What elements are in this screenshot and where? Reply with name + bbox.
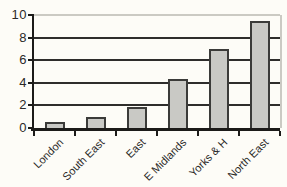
gridline <box>34 82 280 84</box>
x-tick-mark <box>33 131 35 136</box>
y-tick-label: 0 <box>2 120 27 136</box>
y-tick-label: 2 <box>2 97 27 113</box>
gridline <box>34 104 280 106</box>
plot-right-border <box>280 15 282 128</box>
bar <box>250 21 270 128</box>
y-tick-label: 10 <box>2 7 27 23</box>
x-tick-mark <box>115 131 117 136</box>
gridline <box>34 59 280 61</box>
x-tick-mark <box>156 131 158 136</box>
x-tick-mark <box>197 131 199 136</box>
bar-chart: 0246810LondonSouth EastEastE MidlandsYor… <box>0 0 287 187</box>
bar <box>127 107 147 128</box>
gridline <box>34 37 280 39</box>
bar <box>209 49 229 128</box>
x-tick-mark <box>74 131 76 136</box>
y-tick-label: 4 <box>2 75 27 91</box>
y-tick-label: 8 <box>2 30 27 46</box>
y-axis <box>32 14 34 131</box>
gridline <box>34 14 280 16</box>
x-tick-mark <box>238 131 240 136</box>
y-tick-label: 6 <box>2 52 27 68</box>
bar <box>86 117 106 128</box>
bar <box>168 79 188 128</box>
x-tick-mark <box>279 131 281 136</box>
